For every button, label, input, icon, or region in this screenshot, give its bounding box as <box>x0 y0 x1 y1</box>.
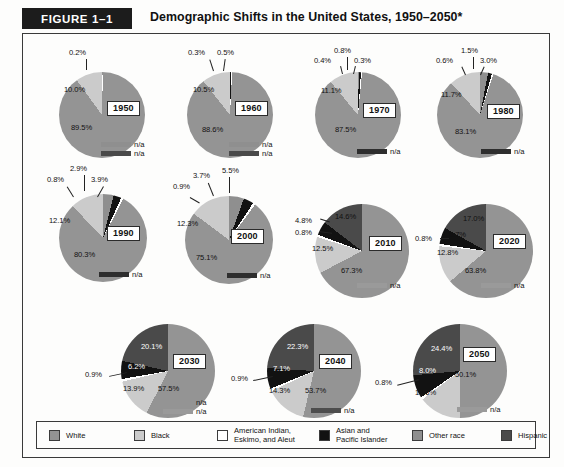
label-american-indian-1990: 0.8% <box>47 175 64 184</box>
na-swatch-other-race-2010 <box>357 283 387 288</box>
year-label-2030: 2030 <box>173 354 206 369</box>
na-row-1950-a: n/a <box>101 141 145 148</box>
year-label-2040: 2040 <box>319 354 352 369</box>
legend-swatch-hispanic-icon <box>501 430 512 441</box>
label-black-1970: 11.1% <box>321 86 341 95</box>
label-white-1960: 88.6% <box>202 125 223 134</box>
legend-label-other-race: Other race <box>429 431 465 440</box>
label-asian-1980: 1.5% <box>461 46 478 55</box>
pie-chart-1950: 0.2% 10.0% 89.5% 1950 n/a n/a <box>45 48 173 164</box>
na-row-1960-b: n/a <box>229 150 273 157</box>
pie-chart-2000: 3.7% 5.5% 0.9% 12.3% 75.1% 2000 n/a <box>171 164 301 286</box>
legend-item-white[interactable]: White <box>49 430 85 441</box>
legend-item-hispanic[interactable]: Hispanic <box>501 430 547 441</box>
na-text-1990-a: n/a <box>132 271 143 278</box>
na-text-1970-a: n/a <box>390 148 401 155</box>
label-other-race-1980: 3.0% <box>480 56 497 65</box>
leader-line-1960-a <box>209 59 214 71</box>
label-white-1970: 87.5% <box>335 125 356 134</box>
year-label-1990: 1990 <box>107 226 140 241</box>
legend-item-asian[interactable]: Asian and Pacific Islander <box>319 426 388 444</box>
leader-line-1990-a <box>84 175 85 191</box>
na-swatch-other-race-2020 <box>481 283 511 288</box>
na-text-1960-b: n/a <box>262 150 273 157</box>
na-swatch-other-race-1960 <box>229 142 259 147</box>
label-white-2000: 75.1% <box>196 253 217 262</box>
na-swatch-hispanic-1950 <box>101 151 131 156</box>
label-other-race-1990: 3.9% <box>91 175 108 184</box>
label-black-2030: 13.9% <box>123 384 144 393</box>
leader-line-2000-b <box>208 183 214 196</box>
na-text-1980-a: n/a <box>514 148 525 155</box>
leader-line-1960-b <box>223 59 226 71</box>
legend-swatch-white-icon <box>49 430 60 441</box>
label-black-1990: 12.1% <box>49 216 70 225</box>
na-row-2040-a: n/a <box>311 407 355 414</box>
legend-label-hispanic: Hispanic <box>518 431 547 440</box>
figure-number-tag: FIGURE 1–1 <box>22 8 132 29</box>
na-row-2030-b: n/a <box>163 408 207 415</box>
label-asian-2040: 7.1% <box>273 364 290 373</box>
label-black-1960: 10.5% <box>193 85 214 94</box>
leader-line-1970-b <box>340 66 343 74</box>
na-row-2020-a: n/a <box>481 282 525 289</box>
pie-chart-2020: 17.0% 5.7% 0.8% 12.8% 63.8% 2020 n/a <box>415 184 551 306</box>
legend-item-other-race[interactable]: Other race <box>412 430 465 441</box>
na-text-2040-a: n/a <box>344 407 355 414</box>
label-white-2020: 63.8% <box>465 266 486 275</box>
year-label-1950: 1950 <box>107 101 140 116</box>
na-swatch-hispanic-1980 <box>481 149 511 154</box>
label-american-indian-1960: 0.3% <box>188 48 205 57</box>
na-text-2010-a: n/a <box>390 282 401 289</box>
na-row-2050-a: n/a <box>457 406 501 413</box>
year-label-1960: 1960 <box>235 101 268 116</box>
label-american-indian-2040: 0.9% <box>231 374 248 383</box>
figure-header: FIGURE 1–1 Demographic Shifts in the Uni… <box>22 8 550 30</box>
label-hispanic-2010: 14.6% <box>335 212 356 221</box>
label-black-2010: 12.5% <box>312 244 333 253</box>
leader-line-1950 <box>86 59 87 70</box>
label-american-indian-2000: 0.9% <box>173 182 190 191</box>
label-hispanic-2050: 24.4% <box>431 344 452 353</box>
na-text-1950-a: n/a <box>134 141 145 148</box>
legend-swatch-asian-icon <box>319 430 330 441</box>
label-american-indian-2050: 0.8% <box>375 378 392 387</box>
leader-line-1990-b <box>67 187 74 198</box>
pie-chart-2050: 24.4% 8.0% 0.8% 14.6% 50.1% 2050 n/a <box>375 304 525 428</box>
na-row-1960-a: n/a <box>229 141 273 148</box>
figure-title: Demographic Shifts in the United States,… <box>150 10 462 24</box>
legend-label-white: White <box>66 431 85 440</box>
na-row-2000-a: n/a <box>227 272 271 279</box>
na-row-2030-a: n/a <box>163 399 207 406</box>
figure-body-frame: 0.2% 10.0% 89.5% 1950 n/a n/a 0.3% 0.5% … <box>22 33 550 458</box>
label-white-2040: 53.7% <box>305 386 326 395</box>
label-other-race-1970: 0.3% <box>354 56 371 65</box>
year-label-2020: 2020 <box>493 234 526 249</box>
leader-line-1970-a <box>347 57 348 70</box>
label-asian-2000: 3.7% <box>193 171 210 180</box>
pie-chart-1970: 0.8% 0.4% 0.3% 11.1% 87.5% 1970 n/a <box>301 48 429 164</box>
year-label-2000: 2000 <box>231 229 264 244</box>
label-white-2030: 57.5% <box>158 384 179 393</box>
figure-root: FIGURE 1–1 Demographic Shifts in the Uni… <box>0 0 564 467</box>
label-asian-1990: 2.9% <box>70 164 87 173</box>
leader-line-2000-c <box>190 197 200 203</box>
legend-item-black[interactable]: Black <box>134 430 170 441</box>
label-white-2010: 67.3% <box>341 266 362 275</box>
year-label-2010: 2010 <box>369 236 402 251</box>
label-asian-1970: 0.8% <box>334 46 351 55</box>
label-black-1980: 11.7% <box>441 90 461 99</box>
na-swatch-other-race-2050 <box>457 407 487 412</box>
na-text-2020-a: n/a <box>514 282 525 289</box>
na-swatch-hispanic-1990 <box>99 272 129 277</box>
label-american-indian-1970: 0.4% <box>314 56 331 65</box>
pie-chart-1980: 1.5% 0.6% 3.0% 11.7% 83.1% 1980 n/a <box>423 48 551 164</box>
na-text-2030-a: n/a <box>196 399 207 406</box>
legend-label-black: Black <box>151 431 170 440</box>
na-swatch-other-race-2040 <box>311 408 341 413</box>
legend-item-american-indian[interactable]: American Indian, Eskimo, and Aleut <box>217 426 295 444</box>
na-row-1980-a: n/a <box>481 148 525 155</box>
na-swatch-hispanic-1970 <box>357 149 387 154</box>
legend-swatch-american-indian-icon <box>217 430 228 441</box>
na-swatch-hispanic-1960 <box>229 151 259 156</box>
